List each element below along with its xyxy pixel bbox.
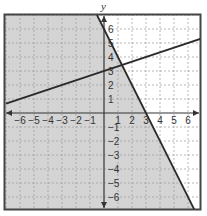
y-tick-label: −4 <box>108 164 120 175</box>
y-axis-label: y <box>100 0 106 12</box>
y-tick-label: 2 <box>108 80 114 91</box>
y-tick-label: −5 <box>108 178 120 189</box>
shaded-region <box>0 8 195 216</box>
y-tick-label: −3 <box>108 150 120 161</box>
x-tick-label: −1 <box>84 115 96 126</box>
y-tick-label: 6 <box>108 24 114 35</box>
shaded-area <box>0 8 195 216</box>
y-axis-up-arrow-icon <box>101 16 107 22</box>
y-tick-label: −2 <box>108 136 120 147</box>
y-tick-label: −1 <box>108 122 120 133</box>
x-tick-label: −5 <box>28 115 40 126</box>
y-tick-label: 5 <box>108 38 114 49</box>
x-tick-label: 6 <box>185 115 191 126</box>
coordinate-plane: −6−5−4−3−2−1123456654321−1−2−3−4−5−6 y <box>0 0 207 216</box>
x-tick-label: −4 <box>42 115 54 126</box>
x-tick-label: −2 <box>70 115 82 126</box>
x-axis-right-arrow-icon <box>193 110 199 116</box>
x-tick-label: 4 <box>157 115 163 126</box>
y-tick-label: 1 <box>108 94 114 105</box>
y-tick-label: 4 <box>108 52 114 63</box>
x-tick-label: −3 <box>56 115 68 126</box>
x-tick-label: 5 <box>171 115 177 126</box>
y-tick-label: −6 <box>108 192 120 203</box>
x-tick-label: 2 <box>129 115 135 126</box>
x-tick-label: −6 <box>14 115 26 126</box>
y-tick-label: 3 <box>108 66 114 77</box>
x-tick-label: 3 <box>143 115 149 126</box>
